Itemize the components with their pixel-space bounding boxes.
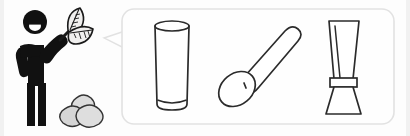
figure-left-leg bbox=[27, 83, 35, 126]
stick-figure-person bbox=[16, 10, 68, 126]
person-layer bbox=[0, 0, 410, 136]
figure-right-leg bbox=[38, 83, 46, 126]
illustration-canvas bbox=[0, 0, 410, 136]
figure-mouth-mask bbox=[29, 20, 41, 25]
stones-cluster bbox=[60, 95, 103, 127]
figure-right-arm bbox=[40, 34, 68, 63]
stone-right bbox=[76, 105, 103, 127]
